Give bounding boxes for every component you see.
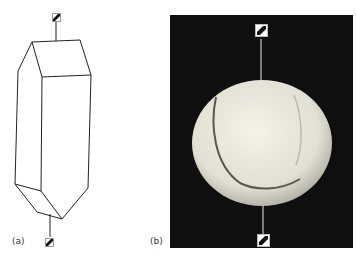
axis-marker-bottom-icon <box>257 234 270 247</box>
panel-a: (a) <box>0 0 120 261</box>
panel-b-label: (b) <box>150 236 163 246</box>
tennis-ball-photo <box>170 15 353 248</box>
prism-wireframe <box>0 0 120 261</box>
axis-marker-bottom-icon <box>45 238 54 247</box>
panel-a-label: (a) <box>12 236 25 246</box>
axis-marker-top-icon <box>255 24 268 37</box>
axis-marker-top-icon <box>52 13 61 22</box>
